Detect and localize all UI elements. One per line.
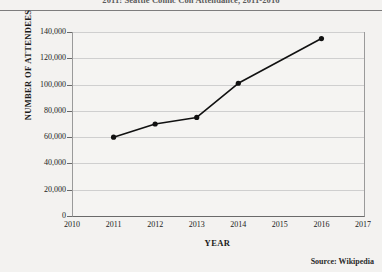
y-tick-label: 120,000 xyxy=(10,53,66,62)
y-tick-label: 140,000 xyxy=(10,27,66,36)
y-tick-label: 100,000 xyxy=(10,80,66,89)
x-axis-title: YEAR xyxy=(72,238,363,248)
plot-area xyxy=(72,32,365,217)
y-tick-label: 40,000 xyxy=(10,158,66,167)
y-tick-mark xyxy=(67,32,72,33)
title-divider xyxy=(0,10,382,11)
y-tick-mark xyxy=(67,190,72,191)
y-tick-label: 20,000 xyxy=(10,185,66,194)
x-tick-label: 2012 xyxy=(135,220,175,229)
gridline xyxy=(73,190,364,191)
x-tick-label: 2015 xyxy=(260,220,300,229)
y-tick-mark xyxy=(67,163,72,164)
gridline xyxy=(73,85,364,86)
x-tick-label: 2014 xyxy=(218,220,258,229)
y-tick-label: 60,000 xyxy=(10,132,66,141)
gridline xyxy=(73,137,364,138)
gridline xyxy=(73,111,364,112)
chart-title: 2011: Seattle Comic Con Attendance, 2011… xyxy=(0,0,382,5)
gridline xyxy=(73,32,364,33)
gridline xyxy=(73,58,364,59)
x-tick-label: 2016 xyxy=(301,220,341,229)
y-tick-mark xyxy=(67,58,72,59)
gridline xyxy=(73,163,364,164)
y-tick-label: 80,000 xyxy=(10,106,66,115)
y-tick-mark xyxy=(67,216,72,217)
y-tick-mark xyxy=(67,137,72,138)
source-note: Source: Wikipedia xyxy=(311,257,374,266)
chart-figure: 2011: Seattle Comic Con Attendance, 2011… xyxy=(0,0,382,272)
y-tick-mark xyxy=(67,111,72,112)
y-tick-label: 0 xyxy=(10,211,66,220)
y-tick-mark xyxy=(67,85,72,86)
x-tick-label: 2011 xyxy=(94,220,134,229)
x-tick-label: 2010 xyxy=(52,220,92,229)
x-tick-label: 2017 xyxy=(343,220,382,229)
x-tick-label: 2013 xyxy=(177,220,217,229)
